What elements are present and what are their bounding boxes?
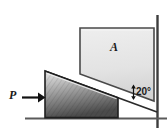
block-label-A: A <box>110 41 118 53</box>
force-arrow-P <box>22 93 46 103</box>
figure-canvas <box>0 0 167 133</box>
statics-wedge-figure: A P 20° <box>0 0 167 133</box>
force-label-P: P <box>9 89 16 101</box>
angle-label-20deg: 20° <box>136 87 151 97</box>
